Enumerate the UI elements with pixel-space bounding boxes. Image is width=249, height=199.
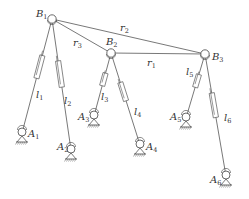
label-l3-subscript: 3 — [104, 96, 108, 104]
rigid-link-r1 — [111, 53, 205, 54]
label-A2-subscript: 2 — [64, 146, 68, 154]
label-A1-subscript: 1 — [35, 133, 39, 141]
joint-B1 — [47, 15, 56, 25]
label-l4-subscript: 4 — [137, 111, 141, 119]
label-r2-subscript: 2 — [125, 27, 129, 35]
label-l2: l2 — [64, 95, 71, 108]
label-B1: B1 — [35, 8, 48, 21]
label-A3-subscript: 3 — [85, 116, 89, 124]
label-A3: A3 — [77, 111, 89, 124]
base-joint-A1 — [16, 125, 29, 144]
label-l1-subscript: 1 — [39, 94, 43, 102]
label-l6-subscript: 6 — [227, 117, 231, 125]
leg-l3 — [94, 53, 111, 116]
label-A5: A5 — [169, 111, 181, 124]
label-r1: r1 — [147, 57, 156, 70]
label-l4: l4 — [134, 106, 141, 119]
label-A4-subscript: 4 — [153, 146, 157, 154]
label-A4: A4 — [145, 141, 157, 154]
base-joint-A6 — [220, 168, 233, 187]
label-B2-subscript: 2 — [113, 41, 117, 49]
label-l2-subscript: 2 — [67, 100, 71, 108]
label-r2: r2 — [120, 22, 129, 35]
label-l1: l1 — [36, 89, 43, 102]
actuator-l5 — [193, 74, 202, 88]
label-r3-subscript: 3 — [78, 42, 82, 50]
base-joint-A5 — [180, 110, 193, 129]
label-B2: B2 — [105, 36, 118, 49]
mechanism-diagram: r1r2r3l1l2l3l4l5l6B1B2B3A1A2A3A4A5A6 — [0, 0, 249, 199]
label-A6: A6 — [209, 174, 221, 187]
base-joint-A4 — [134, 137, 147, 156]
legs — [22, 19, 226, 176]
label-A1: A1 — [27, 128, 39, 141]
leg-l5 — [186, 54, 205, 118]
label-l3: l3 — [101, 91, 108, 104]
labels: r1r2r3l1l2l3l4l5l6B1B2B3A1A2A3A4A5A6 — [27, 8, 231, 187]
label-r1-subscript: 1 — [152, 62, 156, 70]
label-A2: A2 — [56, 141, 68, 154]
actuator-l6 — [209, 93, 218, 118]
label-l5: l5 — [186, 66, 193, 79]
label-l6: l6 — [224, 112, 231, 125]
leg-l6 — [205, 54, 226, 176]
label-A5-subscript: 5 — [177, 116, 181, 124]
joint-B3 — [200, 50, 209, 60]
label-r3: r3 — [73, 37, 82, 50]
actuator-l2 — [56, 61, 65, 88]
leg-l1 — [22, 19, 52, 133]
leg-l2 — [52, 19, 71, 150]
label-A6-subscript: 6 — [217, 179, 221, 187]
joint-B2 — [106, 49, 115, 59]
label-l5-subscript: 5 — [189, 71, 193, 79]
actuator-l1 — [34, 55, 45, 79]
leg-l4 — [111, 53, 140, 145]
label-B3-subscript: 3 — [219, 56, 223, 64]
base-joint-A3 — [88, 108, 101, 127]
actuator-l4 — [118, 82, 129, 102]
mechanism-canvas: r1r2r3l1l2l3l4l5l6B1B2B3A1A2A3A4A5A6 — [0, 0, 249, 199]
label-B1-subscript: 1 — [43, 13, 47, 21]
label-B3: B3 — [211, 51, 224, 64]
